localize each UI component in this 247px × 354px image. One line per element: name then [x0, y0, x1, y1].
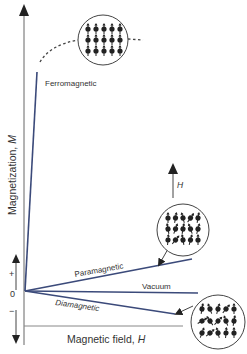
plus-label: +	[9, 269, 14, 279]
paramagnetic-pointer	[160, 249, 168, 263]
magnetization-diagram: + 0 − Magnetization, M Magnetic field, H…	[0, 0, 247, 354]
ferromagnetic-saturation-dotted-right	[128, 39, 143, 40]
diamagnetic-curve	[25, 291, 175, 314]
diamagnetic-pointer	[178, 306, 193, 313]
diamagnetic-label: Diamagnetic	[55, 298, 100, 313]
vacuum-label: Vacuum	[142, 282, 171, 291]
x-axis-label: Magnetic field, H	[67, 333, 146, 345]
ferromagnetic-saturation-dotted	[40, 40, 78, 62]
origin-label: 0	[10, 289, 15, 299]
ferromagnetic-curve	[25, 72, 37, 291]
y-axis-label: Magnetization, M	[6, 135, 18, 215]
ferromagnetic-label: Ferromagnetic	[45, 79, 97, 88]
vacuum-line	[25, 291, 198, 293]
field-arrow-icon	[168, 163, 178, 174]
negative-arrow-icon	[12, 335, 20, 344]
paramagnetic-dipoles	[164, 212, 202, 246]
positive-arrow-icon	[12, 254, 20, 263]
field-arrow-label: H	[177, 180, 184, 190]
y-axis-arrow-icon	[19, 4, 29, 16]
minus-label: −	[9, 306, 14, 316]
